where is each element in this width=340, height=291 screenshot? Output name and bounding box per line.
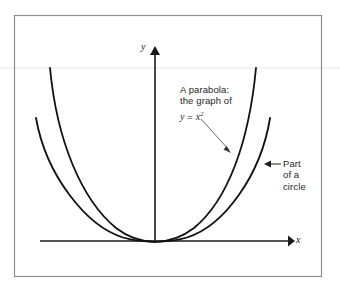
x-axis-label: x <box>296 234 300 245</box>
circle-annotation-line2: of a <box>283 169 306 180</box>
equation-exponent: 2 <box>200 110 203 117</box>
parabola-annotation: A parabola: the graph of y = x2 <box>180 84 232 122</box>
parabola-annotation-line1: A parabola: <box>180 84 232 95</box>
parabola-leader-arrowhead <box>224 146 232 153</box>
x-axis-arrowhead <box>288 236 295 247</box>
parabola-annotation-line2: the graph of <box>180 95 232 106</box>
outer-frame <box>15 16 322 277</box>
circle-annotation: Part of a circle <box>283 158 306 192</box>
figure-container: y x A parabola: the graph of y = x2 Part… <box>0 0 340 291</box>
equation-operator: = <box>185 111 196 122</box>
y-axis-label: y <box>141 41 145 52</box>
circle-annotation-line3: circle <box>283 181 306 192</box>
parabola-leader-line <box>201 119 229 150</box>
y-axis-arrowhead <box>150 46 160 55</box>
parabola-equation: y = x2 <box>180 108 232 123</box>
circle-leader-arrowhead <box>264 161 271 168</box>
circle-arc-curve <box>36 118 270 242</box>
diagram-canvas <box>0 0 340 291</box>
circle-annotation-line1: Part <box>283 158 306 169</box>
